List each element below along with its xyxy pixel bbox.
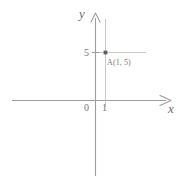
x-tick-label-1: 1 [102,103,107,113]
origin-label: 0 [84,103,89,113]
y-tick-label-5: 5 [84,48,89,58]
x-axis-label: x [168,102,174,115]
coordinate-plane-figure: y x 5 0 1 A(1, 5) [0,0,188,185]
point-label-a: A(1, 5) [107,59,131,67]
point-marker-a [104,51,108,55]
axes-and-plot-svg [0,0,188,185]
y-axis-label: y [79,7,85,20]
